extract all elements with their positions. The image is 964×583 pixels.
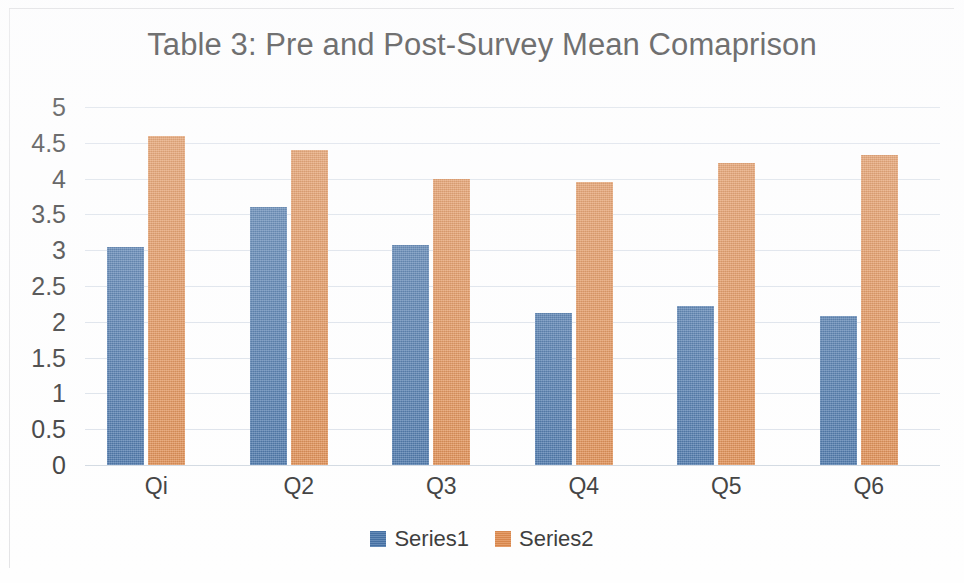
x-axis-tick-label: Q5	[655, 473, 798, 500]
y-axis-tick-label: 2	[52, 309, 66, 334]
legend-swatch-icon	[495, 531, 511, 547]
y-axis-tick-label: 0	[52, 453, 66, 478]
y-axis-tick-label: 5	[52, 95, 66, 120]
x-axis-tick-label: Qi	[85, 473, 228, 500]
bar-group	[655, 107, 798, 465]
page-border-top-edge	[9, 8, 954, 9]
bars-layer	[85, 107, 940, 465]
bar-group	[228, 107, 371, 465]
y-axis-tick-label: 1	[52, 381, 66, 406]
x-axis-tick-label: Q4	[513, 473, 656, 500]
legend-label: Series1	[394, 526, 469, 552]
bar-series1-q5	[677, 306, 714, 465]
bar-series1-q4	[535, 313, 572, 465]
y-axis-tick-label: 1.5	[31, 345, 66, 370]
chart-legend: Series1Series2	[0, 526, 964, 552]
bar-group	[513, 107, 656, 465]
x-axis-tick-label: Q6	[798, 473, 941, 500]
x-axis: QiQ2Q3Q4Q5Q6	[85, 473, 940, 513]
bar-series2-q2	[291, 150, 328, 465]
bar-group	[798, 107, 941, 465]
bar-series2-q6	[861, 155, 898, 465]
bar-series2-qi	[148, 136, 185, 465]
legend-swatch-icon	[370, 531, 386, 547]
chart-title: Table 3: Pre and Post-Survey Mean Comapr…	[0, 27, 964, 63]
legend-label: Series2	[519, 526, 594, 552]
y-axis-tick-label: 3.5	[31, 202, 66, 227]
y-axis-tick-label: 3	[52, 238, 66, 263]
chart-figure: Table 3: Pre and Post-Survey Mean Comapr…	[0, 0, 964, 583]
y-axis-tick-label: 2.5	[31, 274, 66, 299]
bar-series1-q2	[250, 207, 287, 465]
legend-item: Series2	[495, 526, 594, 552]
y-axis-tick-label: 4.5	[31, 130, 66, 155]
gridline	[85, 465, 940, 466]
bar-group	[85, 107, 228, 465]
bar-series2-q4	[576, 182, 613, 465]
y-axis-tick-label: 4	[52, 166, 66, 191]
plot-area	[85, 107, 940, 465]
legend-item: Series1	[370, 526, 469, 552]
bar-group	[370, 107, 513, 465]
bar-series1-q6	[820, 316, 857, 465]
bar-series2-q5	[718, 163, 755, 465]
bar-series2-q3	[433, 179, 470, 465]
bar-series1-q3	[392, 245, 429, 465]
x-axis-tick-label: Q2	[228, 473, 371, 500]
y-axis: 54.543.532.521.510.50	[0, 107, 66, 465]
y-axis-tick-label: 0.5	[31, 417, 66, 442]
bar-series1-qi	[107, 247, 144, 465]
x-axis-tick-label: Q3	[370, 473, 513, 500]
